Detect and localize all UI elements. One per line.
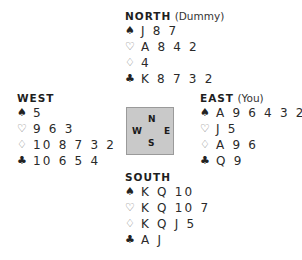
compass-box: N W E S: [126, 107, 174, 155]
card-list: A 9 6 4 3 2: [216, 105, 302, 121]
heart-icon: ♡: [125, 39, 141, 55]
role-label: (Dummy): [175, 10, 225, 22]
club-icon: ♣: [200, 153, 216, 169]
spade-icon: ♠: [125, 184, 141, 200]
compass-east: E: [164, 126, 170, 136]
club-icon: ♣: [125, 71, 141, 87]
diamonds-row: ♢ A 9 6: [200, 137, 302, 153]
heart-icon: ♡: [200, 121, 216, 137]
card-list: 9 6 3: [33, 121, 75, 137]
hearts-row: ♡ J 5: [200, 121, 302, 137]
spades-row: ♠ J 8 7: [125, 23, 224, 39]
diamond-icon: ♢: [125, 216, 141, 232]
clubs-row: ♣ 10 6 5 4: [17, 153, 116, 169]
spades-row: ♠ 5: [17, 105, 116, 121]
card-list: K Q 10 7: [141, 200, 210, 216]
heart-icon: ♡: [17, 121, 33, 137]
heart-icon: ♡: [125, 200, 141, 216]
club-icon: ♣: [17, 153, 33, 169]
spades-row: ♠ A 9 6 4 3 2: [200, 105, 302, 121]
spade-icon: ♠: [17, 105, 33, 121]
seat-label: EAST: [200, 92, 234, 104]
hearts-row: ♡ 9 6 3: [17, 121, 116, 137]
diamonds-row: ♢ 10 8 7 3 2: [17, 137, 116, 153]
diamonds-row: ♢ 4: [125, 55, 224, 71]
north-header: NORTH (Dummy): [125, 9, 224, 23]
card-list: 10 8 7 3 2: [33, 137, 116, 153]
club-icon: ♣: [125, 232, 141, 248]
compass-north: N: [148, 114, 156, 124]
west-header: WEST: [17, 91, 116, 105]
seat-label: SOUTH: [125, 171, 171, 183]
compass-west: W: [132, 126, 142, 136]
compass-south: S: [148, 138, 154, 148]
spade-icon: ♠: [125, 23, 141, 39]
diamond-icon: ♢: [125, 55, 141, 71]
hearts-row: ♡ K Q 10 7: [125, 200, 210, 216]
card-list: 5: [33, 105, 43, 121]
diamond-icon: ♢: [17, 137, 33, 153]
card-list: K Q J 5: [141, 216, 196, 232]
card-list: K 8 7 3 2: [141, 71, 214, 87]
card-list: A J: [141, 232, 163, 248]
role-label: (You): [237, 92, 263, 104]
south-header: SOUTH: [125, 170, 210, 184]
diamonds-row: ♢ K Q J 5: [125, 216, 210, 232]
hearts-row: ♡ A 8 4 2: [125, 39, 224, 55]
card-list: 4: [141, 55, 151, 71]
card-list: J 8 7: [141, 23, 178, 39]
card-list: K Q 10: [141, 184, 194, 200]
card-list: A 9 6: [216, 137, 258, 153]
diamond-icon: ♢: [200, 137, 216, 153]
east-hand: EAST (You) ♠ A 9 6 4 3 2 ♡ J 5 ♢ A 9 6 ♣…: [200, 91, 302, 169]
clubs-row: ♣ Q 9: [200, 153, 302, 169]
north-hand: NORTH (Dummy) ♠ J 8 7 ♡ A 8 4 2 ♢ 4 ♣ K …: [125, 9, 224, 87]
spades-row: ♠ K Q 10: [125, 184, 210, 200]
seat-label: NORTH: [125, 10, 171, 22]
card-list: A 8 4 2: [141, 39, 199, 55]
south-hand: SOUTH ♠ K Q 10 ♡ K Q 10 7 ♢ K Q J 5 ♣ A …: [125, 170, 210, 248]
clubs-row: ♣ K 8 7 3 2: [125, 71, 224, 87]
spade-icon: ♠: [200, 105, 216, 121]
seat-label: WEST: [17, 92, 54, 104]
east-header: EAST (You): [200, 91, 302, 105]
card-list: Q 9: [216, 153, 244, 169]
card-list: 10 6 5 4: [33, 153, 100, 169]
card-list: J 5: [216, 121, 238, 137]
clubs-row: ♣ A J: [125, 232, 210, 248]
west-hand: WEST ♠ 5 ♡ 9 6 3 ♢ 10 8 7 3 2 ♣ 10 6 5 4: [17, 91, 116, 169]
